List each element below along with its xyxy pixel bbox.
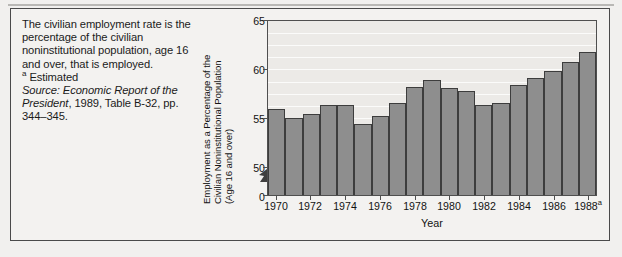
bar-1982 bbox=[475, 105, 492, 195]
bar-1974 bbox=[337, 105, 354, 195]
bar-1979 bbox=[423, 80, 440, 195]
x-tick-label-1986: 1986 bbox=[542, 200, 566, 212]
bar-series bbox=[268, 21, 596, 195]
x-tick-label-1972: 1972 bbox=[298, 200, 322, 212]
x-tick-label-1988: 1988a bbox=[574, 200, 602, 212]
bar-1975 bbox=[354, 124, 371, 195]
bar-1985 bbox=[527, 78, 544, 195]
bar-1971 bbox=[285, 118, 302, 195]
caption-source: Source: Economic Report of the President… bbox=[22, 84, 200, 124]
bar-1976 bbox=[372, 116, 389, 195]
caption-block: The civilian employment rate is the perc… bbox=[22, 18, 200, 124]
footnote-text: Estimated bbox=[29, 71, 78, 83]
bar-1977 bbox=[389, 103, 406, 195]
bar-1986 bbox=[544, 71, 561, 195]
x-tick-label-1978: 1978 bbox=[403, 200, 427, 212]
bar-1972 bbox=[303, 114, 320, 195]
y-axis-title-line-3: (Age 16 and over) bbox=[223, 129, 235, 204]
x-tick-label-1982: 1982 bbox=[472, 200, 496, 212]
y-axis-title-line-1: Employment as a Percentage of the bbox=[201, 55, 213, 204]
bar-1970 bbox=[268, 109, 285, 195]
y-axis-title-line-2: Civilian Noninstitutional Population bbox=[212, 60, 224, 204]
top-rule bbox=[8, 4, 614, 6]
y-axis-title: Employment as a Percentage of the Civili… bbox=[197, 14, 243, 210]
bar-1988 bbox=[579, 52, 596, 195]
bar-1984 bbox=[510, 85, 527, 195]
bar-1981 bbox=[458, 91, 475, 195]
footnote-marker: a bbox=[22, 69, 26, 78]
bar-1980 bbox=[441, 88, 458, 195]
x-tick-label-1974: 1974 bbox=[333, 200, 357, 212]
bar-1983 bbox=[492, 103, 509, 195]
bar-1978 bbox=[406, 87, 423, 195]
x-tick-label-1984: 1984 bbox=[507, 200, 531, 212]
figure-panel: The civilian employment rate is the perc… bbox=[0, 0, 622, 257]
y-axis-tick-labels: 65 60 55 50 0 bbox=[239, 0, 265, 257]
x-axis-title: Year bbox=[267, 217, 597, 229]
bar-1987 bbox=[562, 62, 579, 195]
x-tick-label-1970: 1970 bbox=[264, 200, 288, 212]
x-tick-label-1976: 1976 bbox=[368, 200, 392, 212]
plot-area bbox=[267, 20, 597, 196]
x-tick-superscript: a bbox=[598, 198, 602, 207]
caption-footnote: a Estimated bbox=[22, 71, 200, 84]
x-axis-tick-labels: 1970197219741976197819801982198419861988… bbox=[267, 200, 597, 216]
x-tick-label-1980: 1980 bbox=[437, 200, 461, 212]
bar-1973 bbox=[320, 105, 337, 195]
caption-paragraph: The civilian employment rate is the perc… bbox=[22, 18, 200, 71]
